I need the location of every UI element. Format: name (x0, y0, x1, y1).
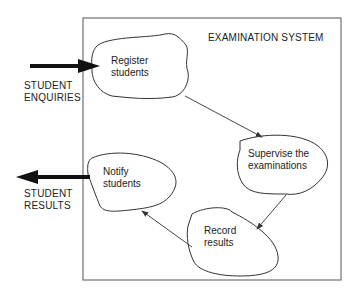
output-label-line2: RESULTS (24, 200, 73, 212)
process-label-supervise: Supervise the examinations (248, 148, 309, 172)
input-label-line2: ENQUIRIES (24, 92, 81, 104)
output-arrow (16, 170, 90, 184)
input-label: STUDENT ENQUIRIES (24, 80, 81, 104)
process-label-notify: Notify students (103, 166, 141, 190)
flow-record-to-notify (142, 211, 192, 247)
process-record-line1: Record (204, 225, 236, 237)
system-title: EXAMINATION SYSTEM (208, 32, 324, 44)
process-notify-line1: Notify (103, 166, 141, 178)
process-register-line2: students (111, 67, 149, 79)
process-register-line1: Register (111, 55, 149, 67)
process-label-record: Record results (204, 225, 236, 249)
process-supervise-line2: examinations (248, 160, 309, 172)
process-record-line2: results (204, 237, 236, 249)
process-label-register: Register students (111, 55, 149, 79)
input-arrow (30, 59, 100, 73)
output-label-line1: STUDENT (24, 188, 73, 200)
output-label: STUDENT RESULTS (24, 188, 73, 212)
input-label-line1: STUDENT (24, 80, 81, 92)
flow-register-to-supervise (185, 96, 262, 137)
process-supervise-line1: Supervise the (248, 148, 309, 160)
process-notify-line2: students (103, 178, 141, 190)
flow-supervise-to-record (257, 195, 286, 229)
